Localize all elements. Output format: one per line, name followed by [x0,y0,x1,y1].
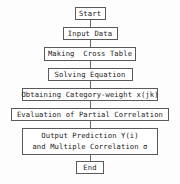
flowchart-node-obtaining-category-weight: Obtaining Category-weight x(jk) [22,88,158,101]
flowchart-node-solving-equation: Solving Equation [48,68,133,81]
flowchart-node-input-data-label: Input Data [68,29,112,38]
flowchart-node-output-prediction: Output Prediction Y(i) and Multiple Corr… [22,128,158,155]
flowchart-node-obtaining-category-weight-label: Obtaining Category-weight x(jk) [21,90,158,99]
flowchart-connector-making-cross-table-solving-equation [90,61,91,68]
flowchart-connector-input-data-making-cross-table [90,40,91,47]
flowchart-node-input-data: Input Data [63,27,118,40]
flowchart-connector-obtaining-category-weight-evaluation-partial-correlation [90,101,91,108]
flowchart-node-output-prediction-label-line2: and Multiple Correlation σ [32,142,147,152]
flowchart-node-solving-equation-label: Solving Equation [55,70,126,79]
flowchart-connector-solving-equation-obtaining-category-weight [90,81,91,88]
flowchart-node-making-cross-table: Making Cross Table [44,47,136,60]
flowchart-node-output-prediction-label-line1: Output Prediction Y(i) [41,131,138,141]
flowchart-node-evaluation-partial-correlation-label: Evaluation of Partial Correlation [17,110,163,119]
flowchart-node-start: Start [75,7,106,20]
flowchart-node-end: End [76,161,104,174]
flowchart-diagram: Start Input Data Making Cross Table Solv… [0,0,180,184]
flowchart-node-making-cross-table-label: Making Cross Table [48,49,132,58]
flowchart-node-evaluation-partial-correlation: Evaluation of Partial Correlation [11,108,169,121]
flowchart-connector-start-input-data [90,20,91,27]
flowchart-node-start-label: Start [79,9,101,18]
flowchart-node-end-label: End [83,163,96,172]
flowchart-connector-evaluation-partial-correlation-output-prediction [90,121,91,128]
